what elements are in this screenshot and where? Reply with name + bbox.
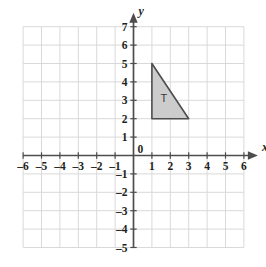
y-tick-label: –1 [115, 168, 128, 180]
x-tick-label: –4 [53, 160, 66, 172]
shape-label-t: T [160, 92, 167, 104]
y-tick-label: 7 [122, 21, 128, 33]
x-tick-label: 5 [223, 160, 229, 172]
y-tick-label: 6 [122, 39, 128, 51]
x-tick-label: –5 [35, 160, 48, 172]
y-tick-label: –4 [115, 223, 128, 235]
y-tick-label: 5 [122, 58, 128, 70]
y-tick-label: 3 [122, 94, 128, 106]
y-tick-label: 4 [122, 76, 128, 88]
y-tick-label: –5 [115, 242, 128, 254]
x-tick-label: –2 [90, 160, 103, 172]
x-tick-label: 4 [204, 160, 210, 172]
y-tick-label: 1 [122, 131, 128, 143]
y-tick-label: –3 [115, 205, 128, 217]
x-axis-arrow [248, 151, 258, 159]
y-tick-label: 2 [122, 113, 128, 125]
y-axis-arrow [129, 13, 137, 23]
origin-label: 0 [138, 143, 144, 155]
x-tick-label: 3 [186, 160, 192, 172]
coordinate-plane-svg: T –6–5–4–3–2–11234567654321–1–2–3–4–50 x… [0, 0, 266, 267]
x-tick-label: –3 [72, 160, 85, 172]
y-tick-label: –2 [115, 186, 128, 198]
x-tick-label: 6 [241, 160, 247, 172]
x-tick-label: 1 [149, 160, 155, 172]
y-axis-name: y [137, 4, 145, 18]
axis-lines [23, 13, 258, 248]
x-axis-name: x [261, 140, 266, 154]
x-tick-label: –6 [16, 160, 29, 172]
coordinate-plane-figure: T –6–5–4–3–2–11234567654321–1–2–3–4–50 x… [0, 0, 266, 267]
x-tick-label: 2 [167, 160, 173, 172]
